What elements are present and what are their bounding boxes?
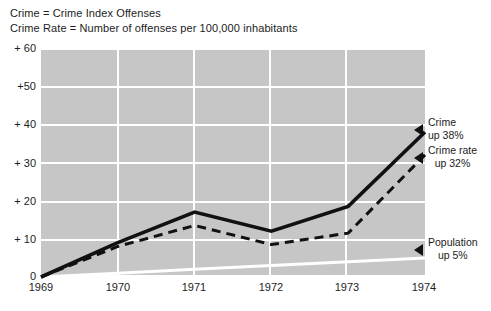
plot-lines — [41, 48, 425, 277]
crime-rate-pointer-icon — [414, 152, 423, 164]
annotation-population-value: up 5% — [428, 249, 478, 262]
x-axis-tick-1969: 1969 — [11, 281, 71, 293]
y-axis-tick-20: + 20 — [0, 195, 36, 207]
annotation-crime: Crime up 38% — [428, 116, 464, 142]
y-axis-tick-50: +50 — [0, 80, 36, 92]
legend-line-crime: Crime = Crime Index Offenses — [10, 6, 298, 21]
population-pointer-icon — [414, 244, 423, 256]
annotation-crime-rate-value: up 32% — [428, 157, 477, 170]
y-axis-tick-30: + 30 — [0, 157, 36, 169]
x-axis-tick-1973: 1973 — [317, 281, 377, 293]
legend-definitions: Crime = Crime Index Offenses Crime Rate … — [10, 6, 298, 36]
annotation-population-title: Population — [428, 236, 478, 249]
chart-page: Crime = Crime Index Offenses Crime Rate … — [0, 0, 491, 311]
crime-rate-line — [41, 155, 425, 277]
x-axis-tick-1972: 1972 — [241, 281, 301, 293]
annotation-crime-rate: Crime rate up 32% — [428, 144, 477, 170]
legend-line-crime-rate: Crime Rate = Number of offenses per 100,… — [10, 21, 298, 36]
annotation-population: Population up 5% — [428, 236, 478, 262]
x-axis-tick-1970: 1970 — [88, 281, 148, 293]
annotation-crime-rate-title: Crime rate — [428, 144, 477, 157]
y-axis-tick-40: + 40 — [0, 118, 36, 130]
plot-area — [41, 48, 425, 277]
annotation-crime-value: up 38% — [428, 129, 464, 142]
y-axis-tick-10: + 10 — [0, 233, 36, 245]
y-axis-tick-60: + 60 — [0, 42, 36, 54]
x-axis-tick-1974: 1974 — [394, 281, 454, 293]
annotation-crime-title: Crime — [428, 116, 464, 129]
x-axis-tick-1971: 1971 — [164, 281, 224, 293]
population-line — [41, 258, 425, 277]
crime-pointer-icon — [414, 124, 423, 136]
